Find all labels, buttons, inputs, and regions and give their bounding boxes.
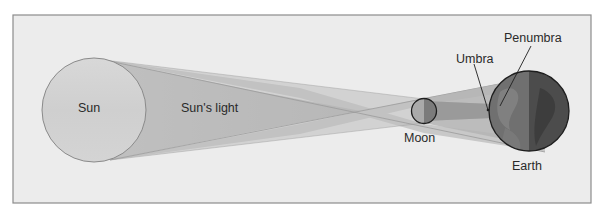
penumbra-label: Penumbra: [504, 31, 562, 45]
moon: [411, 98, 437, 124]
suns-light-label: Sun's light: [181, 101, 238, 115]
earth: [489, 71, 569, 151]
earth-label: Earth: [512, 159, 542, 173]
moon-label: Moon: [404, 131, 435, 145]
sun-label: Sun: [78, 101, 100, 115]
umbra-label: Umbra: [456, 52, 494, 66]
